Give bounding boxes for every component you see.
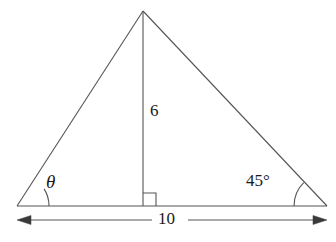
altitude-label: 6: [150, 102, 159, 119]
triangle-left-side: [17, 11, 143, 206]
base-length-label: 10: [158, 210, 175, 227]
dimension-arrowhead-left: [17, 216, 31, 225]
geometry-figure: θ 45° 6 10: [0, 0, 336, 242]
dimension-arrowhead-right: [313, 216, 327, 225]
triangle-diagram-svg: [0, 0, 336, 242]
right-angle-marker: [143, 193, 156, 206]
right-angle-label: 45°: [246, 172, 270, 189]
triangle-right-side: [143, 11, 327, 206]
right-angle-arc: [294, 183, 304, 206]
left-angle-label: θ: [46, 172, 55, 191]
